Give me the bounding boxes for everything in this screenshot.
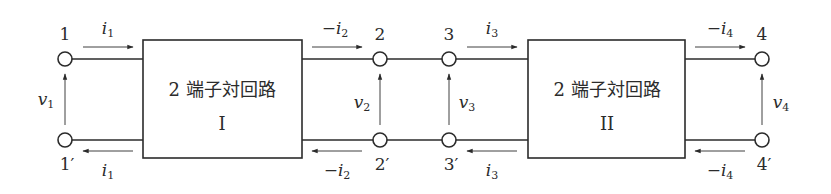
- terminal-1p: [58, 133, 72, 147]
- terminal-4p: [755, 133, 769, 147]
- voltage-label-v3: v3: [459, 94, 476, 113]
- terminal-2: [373, 52, 387, 66]
- network-II-title: 2 端子対回路: [553, 81, 660, 99]
- terminal-label-1: 1: [60, 26, 71, 43]
- network-I-title: 2 端子対回路: [168, 81, 275, 99]
- network-I-roman: I: [218, 115, 225, 133]
- current-label-i1-bottom: i1: [102, 162, 114, 181]
- terminal-1: [58, 52, 72, 66]
- network-II-roman: II: [600, 115, 614, 133]
- current-label-i2-bottom: −i2: [324, 162, 351, 181]
- current-label-i4-bottom: −i4: [707, 162, 734, 181]
- terminal-2p: [373, 133, 387, 147]
- terminal-3p: [442, 133, 456, 147]
- terminal-label-2: 2: [375, 26, 386, 43]
- current-label-i3-top: i3: [486, 20, 498, 39]
- voltage-label-v4: v4: [773, 94, 790, 113]
- current-label-i3-bottom: i3: [486, 162, 498, 181]
- terminal-label-3p: 3′: [444, 156, 459, 173]
- terminal-4: [755, 52, 769, 66]
- terminal-label-4p: 4′: [757, 156, 772, 173]
- terminal-label-2p: 2′: [375, 156, 390, 173]
- terminal-label-1p: 1′: [60, 156, 75, 173]
- terminal-label-3: 3: [444, 26, 455, 43]
- current-label-i1-top: i1: [102, 20, 114, 39]
- voltage-label-v1: v1: [38, 91, 55, 110]
- voltage-label-v2: v2: [354, 94, 371, 113]
- terminal-label-4: 4: [757, 26, 768, 43]
- current-label-i4-top: −i4: [707, 20, 734, 39]
- terminal-3: [442, 52, 456, 66]
- current-label-i2-top: −i2: [322, 20, 349, 39]
